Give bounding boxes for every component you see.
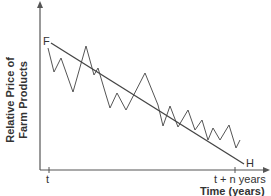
label-h: H xyxy=(246,157,254,169)
y-axis-arrow-icon xyxy=(37,1,43,8)
y-axis-label-line1: Relative Price of xyxy=(4,57,16,143)
y-axis-label-line2: Farm Products xyxy=(17,61,29,139)
trend-line-f-h xyxy=(51,43,244,164)
x-axis-label: Time (years) xyxy=(200,185,265,196)
tick-label-start: t xyxy=(46,173,49,185)
price-zigzag-line xyxy=(48,46,240,148)
label-f: F xyxy=(43,35,50,47)
tick-label-end: t + n years xyxy=(214,173,266,185)
chart: F H t t + n years Time (years) Relative … xyxy=(0,0,271,196)
